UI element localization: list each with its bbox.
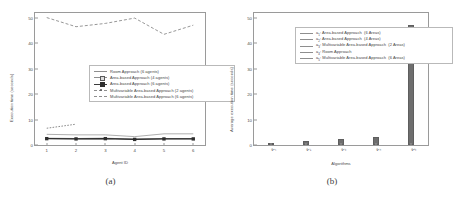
legend-key-dashed-dot-icon — [93, 87, 108, 93]
legend-approach-detail: (6 Areas) — [388, 55, 405, 60]
legend-label: Multivariable Area-based Approach (2 age… — [110, 88, 193, 93]
legend-approach-name: Multivariable Area-based Approach — [322, 55, 386, 60]
panel-b-ytick-50: 50 — [247, 16, 252, 21]
legend-approach-name: Area-based Approach — [322, 30, 362, 35]
panel-b-ytick-10: 10 — [247, 117, 252, 122]
panel-a-xtick-6: 6 — [192, 148, 194, 153]
panel-b-xtick-a2: a2 — [305, 146, 313, 154]
legend-key-line-icon — [299, 36, 314, 42]
legend-label: Multivariable Area-based Approach (6 age… — [110, 94, 193, 99]
legend-key-line-icon — [299, 43, 314, 49]
legend-key-line-icon — [299, 55, 314, 61]
panel-b-xtick-a3: a3 — [340, 146, 348, 154]
panel-a-plot-area: 0 10 20 30 40 50 1 2 3 4 5 6 — [34, 12, 206, 146]
legend-approach-name: Multivariable Area-based Approach — [322, 42, 386, 47]
panel-b-xtick-a4: a4 — [374, 146, 382, 154]
panel-a-caption: (a) — [0, 176, 221, 186]
legend-key-line-icon — [299, 30, 314, 36]
panel-a-ytick-0: 0 — [31, 143, 33, 148]
legend-item-a5: a5: Multivariable Area-based Approach (6… — [299, 55, 449, 61]
panel-a-xtick-2: 2 — [75, 148, 77, 153]
legend-key-line-icon — [299, 49, 314, 55]
legend-key-line-icon — [93, 68, 108, 74]
panel-a-ytick-10: 10 — [28, 117, 33, 122]
legend-key-open-square-icon — [93, 74, 108, 80]
series-room-6agents — [47, 134, 194, 137]
legend-label: Area-based Approach (6 agents) — [110, 81, 169, 86]
legend-key-dashed-icon — [93, 93, 108, 99]
legend-approach-detail: (4 Areas) — [364, 36, 381, 41]
panel-a-legend: Room Approach (6 agents) Area-based Appr… — [89, 65, 235, 102]
panel-b: Average execution time (seconds) Algorit… — [221, 0, 443, 203]
panel-a-xtick-4: 4 — [133, 148, 135, 153]
panel-b-ytick-30: 30 — [247, 66, 252, 71]
panel-a-ytick-30: 30 — [28, 66, 33, 71]
panel-a-xtick-1: 1 — [46, 148, 48, 153]
panel-a-x-axis-label: Agent ID — [34, 160, 206, 165]
panel-b-ytick-40: 40 — [247, 41, 252, 46]
series-multivariable-2agents — [47, 124, 76, 128]
xtick-mark — [410, 143, 411, 146]
panel-b-x-axis-label: Algorithms — [253, 161, 429, 166]
panel-a-y-axis-label: Execution time (seconds) — [9, 74, 14, 122]
legend-label: a5: Multivariable Area-based Approach (6… — [316, 55, 405, 62]
xtick-mark — [341, 143, 342, 146]
panel-a-xtick-3: 3 — [104, 148, 106, 153]
legend-key-subscript: 5 — [318, 58, 320, 62]
legend-label: Room Approach (6 agents) — [110, 69, 159, 74]
legend-item-multivariable-6agents: Multivariable Area-based Approach (6 age… — [93, 93, 231, 99]
series-multivariable-6agents — [47, 18, 194, 35]
legend-approach-detail: (6 Areas) — [364, 30, 381, 35]
xtick-mark — [375, 143, 376, 146]
legend-approach-detail: (2 Areas) — [388, 42, 405, 47]
panel-a-xtick-5: 5 — [163, 148, 165, 153]
panel-b-caption: (b) — [221, 176, 443, 186]
panel-b-xtick-a1: a1 — [270, 146, 278, 154]
panel-b-plot-area: 0 10 20 30 40 50 a1a2a3a4a5 a1: Area-bas… — [253, 12, 429, 146]
legend-approach-name: Room Approach — [322, 49, 351, 54]
panel-a-ytick-40: 40 — [28, 41, 33, 46]
panel-b-xtick-a5: a5 — [409, 146, 417, 154]
panel-a: Execution time (seconds) Agent ID 0 10 2… — [0, 0, 221, 203]
panel-b-ytick-20: 20 — [247, 92, 252, 97]
panel-b-y-axis-label: Average execution time (seconds) — [229, 67, 234, 132]
panel-b-legend: a1: Area-based Approach (6 Areas) a2: Ar… — [295, 27, 453, 64]
panel-b-ytick-0: 0 — [250, 143, 252, 148]
panel-a-ytick-50: 50 — [28, 16, 33, 21]
legend-label: Area-based Approach (4 agents) — [110, 75, 169, 80]
panel-a-ytick-20: 20 — [28, 92, 33, 97]
series-area-6agents — [47, 139, 194, 140]
legend-key-filled-square-icon — [93, 81, 108, 87]
legend-approach-name: Area-based Approach — [322, 36, 362, 41]
